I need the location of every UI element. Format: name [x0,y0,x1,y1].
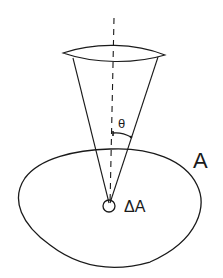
label-delta-a: ΔA [124,198,146,215]
angle-arc-end-right [130,136,133,139]
angle-arc [113,133,131,137]
cone-rim [63,45,165,61]
label-surface-a: A [193,148,208,173]
axis-dashed-line [110,18,114,205]
label-theta: θ [118,116,125,131]
surface-ellipse [18,149,200,267]
cone-left-edge [73,58,109,203]
diagram-canvas: θ ΔA A [0,0,223,278]
